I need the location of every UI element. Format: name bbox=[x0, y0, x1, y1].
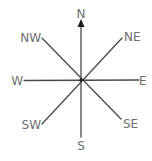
label-southwest: SW bbox=[22, 118, 42, 132]
label-south: S bbox=[77, 139, 85, 153]
label-northeast: NE bbox=[124, 30, 141, 44]
label-northwest: NW bbox=[20, 31, 41, 45]
label-north: N bbox=[77, 7, 86, 21]
label-southeast: SE bbox=[123, 117, 138, 131]
center-point bbox=[79, 78, 82, 81]
compass-rose: N NE E SE S SW W NW bbox=[0, 0, 152, 161]
label-east: E bbox=[139, 74, 147, 88]
label-west: W bbox=[11, 74, 23, 88]
